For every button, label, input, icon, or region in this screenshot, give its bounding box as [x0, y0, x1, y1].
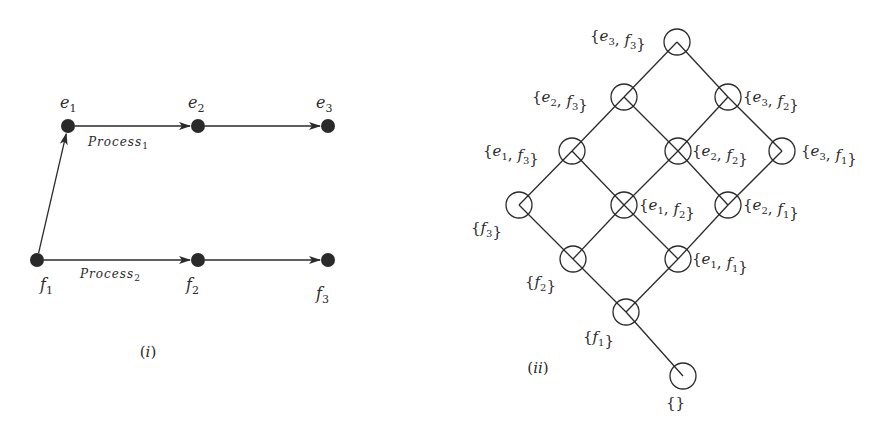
lattice-label-e1f2: {e1, f2} [639, 196, 695, 222]
node-e3 [321, 119, 335, 133]
lattice-label-f1: {f1} [583, 328, 614, 350]
lattice-label-f3: {f3} [471, 219, 502, 241]
node-e1 [61, 119, 75, 133]
lattice-label-empty: {} [666, 394, 685, 412]
lattice-edge-f2-f1 [573, 259, 626, 312]
node-label-e1: e1 [60, 93, 76, 115]
node-f1 [30, 253, 44, 267]
lattice-edge-e1f2-f2 [573, 205, 624, 259]
node-label-f2: f2 [185, 275, 199, 297]
process-labels: e1e2e3f1f2f3Process1Process2 [39, 93, 332, 306]
caption-ii: (ii) [527, 359, 548, 377]
node-label-f3: f3 [315, 284, 329, 306]
lattice-label-e1f1: {e1, f1} [692, 250, 748, 276]
process-nodes [30, 119, 335, 267]
node-f3 [321, 253, 335, 267]
node-label-e3: e3 [316, 93, 332, 115]
lattice-edge-e2f3-e2f2 [624, 97, 678, 151]
process-label-2: Process2 [79, 267, 141, 283]
figure-lattice: {e3, f3}{e2, f3}{e3, f2}{e1, f3}{e2, f2}… [471, 27, 857, 412]
node-label-e2: e2 [188, 93, 204, 115]
diagram-canvas: e1e2e3f1f2f3Process1Process2 (i) {e3, f3… [0, 0, 889, 431]
lattice-edge-e3f3-e3f2 [677, 42, 728, 97]
lattice-label-e1f3: {e1, f3} [483, 142, 539, 168]
lattice-label-e2f3: {e2, f3} [532, 88, 588, 114]
lattice-label-e3f3: {e3, f3} [590, 27, 646, 53]
lattice-edge-e1f1-f1 [626, 259, 678, 312]
lattice-label-e2f2: {e2, f2} [692, 142, 748, 168]
node-f2 [191, 253, 205, 267]
lattice-label-f2: {f2} [525, 273, 556, 295]
lattice-edge-e1f3-e1f2 [572, 151, 624, 205]
node-label-f1: f1 [39, 275, 53, 297]
process-edges [39, 126, 320, 260]
process-label-1: Process1 [87, 135, 149, 151]
figure-process-graph: e1e2e3f1f2f3Process1Process2 (i) [30, 93, 335, 361]
edge-f1-e1 [39, 134, 67, 253]
lattice-label-e3f2: {e3, f2} [743, 88, 799, 114]
lattice-label-e2f1: {e2, f1} [743, 196, 799, 222]
node-e2 [191, 119, 205, 133]
caption-i: (i) [140, 343, 157, 361]
lattice-label-e3f1: {e3, f1} [801, 142, 857, 168]
lattice-edge-f3-f2 [519, 205, 573, 259]
